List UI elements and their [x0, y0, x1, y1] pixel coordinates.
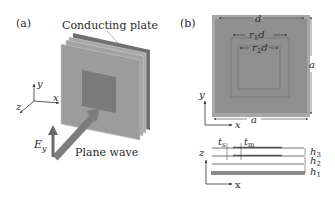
plane-wave-label: Plane wave: [75, 146, 138, 159]
axis-x-label: x: [53, 92, 59, 103]
axes-3d: y x z: [15, 78, 59, 113]
panel-a-label: (a): [16, 17, 31, 30]
ground-layer: [211, 171, 305, 175]
conducting-plate-stack: [61, 33, 150, 140]
dimension-a-vertical: a: [309, 59, 315, 70]
axis-z-label: z: [15, 101, 22, 112]
label-ts: ts: [218, 136, 226, 149]
dimension-d: d: [255, 13, 261, 24]
field-label: Ey: [33, 138, 47, 153]
panel-b: (b) d r1d r2d a a y x: [180, 13, 315, 130]
figure: (a) Conducting plate Ey Plane w: [0, 0, 335, 199]
axes-zx: z x: [198, 147, 241, 190]
conducting-plate-label: Conducting plate: [62, 19, 158, 32]
dimension-a-horizontal: a: [251, 114, 257, 125]
panel-a: (a) Conducting plate Ey Plane w: [15, 17, 158, 159]
panel-b-cross-section: ts tm h3 h2 h1 z x: [198, 136, 321, 190]
axis-x-label: x: [235, 119, 241, 130]
panel-b-label: (b): [180, 17, 196, 30]
axis-y-label: y: [36, 78, 43, 89]
axis-y-label: y: [198, 89, 205, 100]
center-square: [82, 70, 116, 113]
axis-z-label: z: [198, 147, 205, 158]
axis-x-label: x: [235, 179, 241, 190]
